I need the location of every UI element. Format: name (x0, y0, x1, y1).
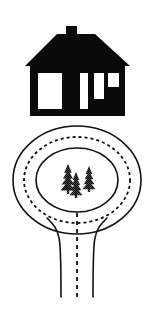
window-small-right (108, 73, 119, 87)
scene-svg (0, 0, 153, 318)
tree-trunk (67, 190, 69, 194)
clipart-scene (0, 0, 153, 318)
window-middle-right (94, 73, 104, 99)
tree-trunk (88, 188, 90, 192)
tree-trunk (75, 194, 77, 198)
door (80, 73, 88, 109)
window-large-left (38, 73, 62, 109)
